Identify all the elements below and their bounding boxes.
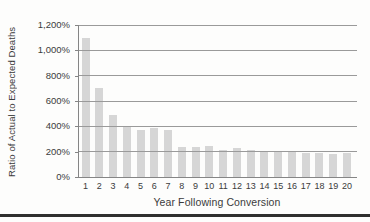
y-tick-label: 0%	[56, 171, 70, 182]
x-tick-label: 20	[338, 181, 356, 191]
y-tick-mark	[75, 25, 78, 26]
y-tick-label: 800%	[46, 70, 70, 81]
y-tick-mark	[75, 76, 78, 77]
x-axis-title: Year Following Conversion	[78, 196, 356, 208]
chart-figure: Ratio of Actual to Expected Deaths 0%200…	[0, 0, 370, 222]
y-tick-label: 1,200%	[38, 19, 70, 30]
gridline	[79, 75, 357, 76]
gridline	[79, 126, 357, 127]
y-tick-mark	[75, 50, 78, 51]
x-tick-labels: 1234567891011121314151617181920	[79, 181, 357, 193]
gridlines-layer	[79, 25, 357, 177]
plot-area	[78, 25, 357, 178]
y-tick-labels: 0%200%400%600%800%1,000%1,200%	[0, 25, 75, 177]
gridline	[79, 151, 357, 152]
gridline	[79, 50, 357, 51]
y-tick-label: 1,000%	[38, 44, 70, 55]
y-tick-label: 600%	[46, 95, 70, 106]
y-tick-label: 200%	[46, 146, 70, 157]
gridline	[79, 25, 357, 26]
gridline	[79, 101, 357, 102]
y-tick-mark	[75, 126, 78, 127]
y-tick-mark	[75, 177, 78, 178]
y-tick-mark	[75, 101, 78, 102]
page-divider-rule	[0, 214, 370, 217]
y-tick-mark	[75, 152, 78, 153]
y-tick-label: 400%	[46, 120, 70, 131]
